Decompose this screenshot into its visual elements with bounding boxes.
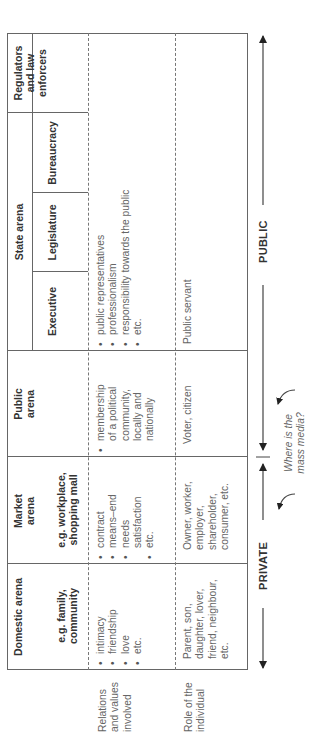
private-label: PRIVATE xyxy=(257,542,269,590)
diagram-canvas: Domestic arena e.g. family, community Ma… xyxy=(0,0,315,732)
media-curve-arrow-private xyxy=(279,494,295,509)
public-label: PUBLIC xyxy=(257,220,269,263)
mass-media-question: Where is the mass media? xyxy=(283,407,308,479)
media-curve-arrow-public xyxy=(278,390,295,404)
axis-arrows xyxy=(0,0,315,732)
